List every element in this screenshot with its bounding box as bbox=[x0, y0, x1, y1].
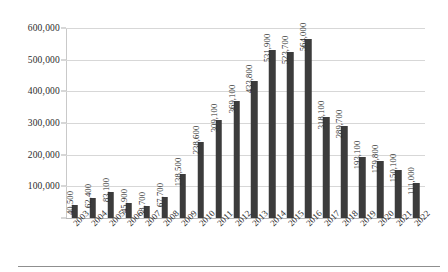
x-axis-labels: 2003200420052006200720082009201020112012… bbox=[66, 221, 425, 265]
plot-area: 100,000200,000300,000400,000500,000600,0… bbox=[66, 28, 425, 218]
bar-value-label: 67,700 bbox=[155, 182, 165, 206]
bar[interactable] bbox=[323, 117, 330, 218]
bar-value-label: 523,700 bbox=[280, 36, 290, 65]
bar-slot[interactable]: 523,700 bbox=[281, 28, 299, 218]
bar-slot[interactable]: 38,700 bbox=[138, 28, 156, 218]
y-axis-label: 300,000 bbox=[28, 118, 60, 128]
bar-value-label: 369,100 bbox=[227, 85, 237, 114]
bar-slot[interactable]: 150,100 bbox=[389, 28, 407, 218]
bar-series: 40,50062,40083,10045,90038,70067,700138,… bbox=[66, 28, 425, 218]
bar-slot[interactable]: 289,700 bbox=[335, 28, 353, 218]
bar-slot[interactable]: 83,100 bbox=[102, 28, 120, 218]
bar-slot[interactable]: 67,700 bbox=[156, 28, 174, 218]
bar[interactable] bbox=[305, 39, 312, 218]
bar-value-label: 111,000 bbox=[406, 167, 416, 195]
bar[interactable] bbox=[287, 52, 294, 218]
bar-value-label: 433,800 bbox=[244, 64, 254, 93]
bar-value-label: 179,800 bbox=[370, 145, 380, 174]
y-axis-label: 600,000 bbox=[28, 23, 60, 33]
bar-value-label: 318,100 bbox=[316, 101, 326, 130]
bar-value-label: 62,400 bbox=[83, 184, 93, 208]
bar-slot[interactable]: 62,400 bbox=[84, 28, 102, 218]
bar[interactable] bbox=[233, 101, 240, 218]
bar[interactable] bbox=[251, 81, 258, 218]
bar-value-label: 289,700 bbox=[334, 110, 344, 139]
bar-value-label: 150,100 bbox=[388, 154, 398, 183]
bar-value-label: 193,100 bbox=[352, 141, 362, 170]
y-axis-label: 200,000 bbox=[28, 150, 60, 160]
y-axis-label: 100,000 bbox=[28, 181, 60, 191]
bar-slot[interactable]: 318,100 bbox=[317, 28, 335, 218]
bar-slot[interactable]: 238,600 bbox=[192, 28, 210, 218]
bar[interactable] bbox=[269, 50, 276, 218]
bar-chart: 100,000200,000300,000400,000500,000600,0… bbox=[0, 0, 448, 272]
bar-slot[interactable]: 45,900 bbox=[120, 28, 138, 218]
bar-slot[interactable]: 40,500 bbox=[66, 28, 84, 218]
bar-slot[interactable]: 531,900 bbox=[263, 28, 281, 218]
bar-value-label: 564,000 bbox=[298, 23, 308, 52]
bar-slot[interactable]: 111,000 bbox=[407, 28, 425, 218]
bar-value-label: 83,100 bbox=[101, 178, 111, 202]
bar-slot[interactable]: 193,100 bbox=[353, 28, 371, 218]
bar-value-label: 238,600 bbox=[191, 126, 201, 155]
bar-slot[interactable]: 564,000 bbox=[299, 28, 317, 218]
bar-slot[interactable]: 309,100 bbox=[210, 28, 228, 218]
bar-slot[interactable]: 179,800 bbox=[371, 28, 389, 218]
bar-slot[interactable]: 369,100 bbox=[228, 28, 246, 218]
bar-value-label: 40,500 bbox=[65, 191, 75, 215]
bar[interactable] bbox=[341, 126, 348, 218]
y-axis-label: 500,000 bbox=[28, 55, 60, 65]
bar-slot[interactable]: 138,500 bbox=[174, 28, 192, 218]
y-axis-label: 400,000 bbox=[28, 86, 60, 96]
bar-value-label: 309,100 bbox=[209, 104, 219, 133]
bar[interactable] bbox=[215, 120, 222, 218]
bar-value-label: 138,500 bbox=[173, 158, 183, 187]
bar-slot[interactable]: 433,800 bbox=[246, 28, 264, 218]
bottom-divider bbox=[18, 266, 440, 267]
bar-value-label: 531,900 bbox=[262, 33, 272, 62]
